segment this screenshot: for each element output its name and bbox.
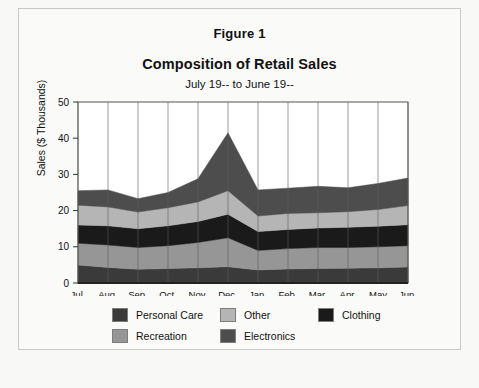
svg-text:Dec.: Dec. [218,289,238,296]
legend-swatch-personal-care [112,308,128,322]
legend-swatch-electronics [220,329,236,343]
svg-text:Jul.: Jul. [71,289,86,296]
svg-text:Aug.: Aug. [98,289,118,296]
svg-text:Nov.: Nov. [189,289,208,296]
legend-label-other: Other [244,309,270,321]
svg-text:20: 20 [58,205,70,216]
legend-swatch-clothing [318,308,334,322]
svg-text:Sep.: Sep. [128,289,148,296]
chart-legend: Personal Care Other Clothing Recreation … [112,308,402,350]
legend-item-electronics: Electronics [220,329,318,343]
plot-area: 01020304050Jul.Aug.Sep.Oct.Nov.Dec.Jan.F… [0,96,479,296]
legend-label-personal-care: Personal Care [136,309,203,321]
svg-text:Mar.: Mar. [309,289,327,296]
area-chart-svg: 01020304050Jul.Aug.Sep.Oct.Nov.Dec.Jan.F… [0,96,479,296]
legend-row: Recreation Electronics [112,329,402,343]
chart-subtitle: July 19-- to June 19-- [0,78,479,90]
legend-label-electronics: Electronics [244,330,295,342]
chart-page: Figure 1 Composition of Retail Sales Jul… [0,0,479,388]
legend-label-recreation: Recreation [136,330,187,342]
legend-item-recreation: Recreation [112,329,220,343]
svg-text:Feb.: Feb. [278,289,297,296]
chart-title: Composition of Retail Sales [0,56,479,72]
legend-item-clothing: Clothing [318,308,402,322]
legend-item-personal-care: Personal Care [112,308,220,322]
svg-text:Jan.: Jan. [249,289,267,296]
legend-row: Personal Care Other Clothing [112,308,402,322]
svg-text:40: 40 [58,133,70,144]
svg-text:0: 0 [63,278,69,289]
svg-text:30: 30 [58,169,70,180]
legend-swatch-other [220,308,236,322]
legend-item-other: Other [220,308,318,322]
svg-text:Jun.: Jun. [399,289,417,296]
svg-text:May: May [369,289,387,296]
legend-label-clothing: Clothing [342,309,381,321]
svg-text:Oct.: Oct. [159,289,176,296]
figure-label: Figure 1 [0,26,479,41]
svg-text:10: 10 [58,241,70,252]
svg-text:Apr.: Apr. [340,289,357,296]
legend-swatch-recreation [112,329,128,343]
svg-text:50: 50 [58,97,70,108]
